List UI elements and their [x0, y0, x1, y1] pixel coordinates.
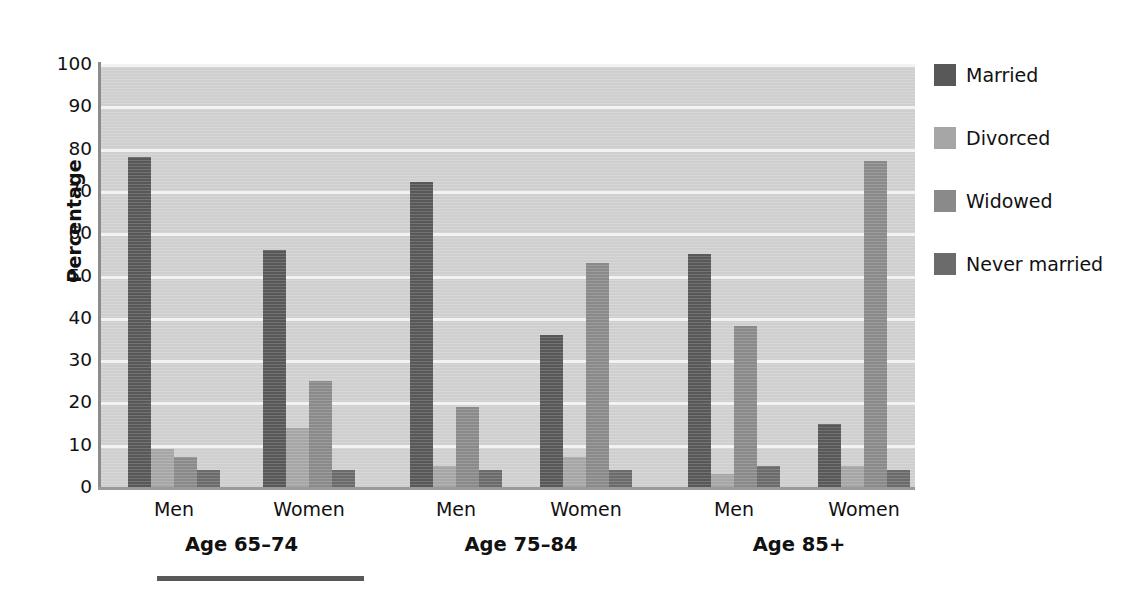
- x-tick-label-women: Women: [511, 498, 661, 520]
- y-tick-label: 40: [48, 309, 92, 328]
- bar: [563, 457, 586, 487]
- bar: [688, 254, 711, 487]
- y-tick-label: 30: [48, 351, 92, 370]
- bar: [734, 326, 757, 487]
- bar: [197, 470, 220, 487]
- legend-swatch-icon: [934, 127, 956, 149]
- gridline: [100, 191, 915, 194]
- age-group-label: Age 65–74: [127, 533, 357, 556]
- legend-swatch-icon: [934, 190, 956, 212]
- gridline: [100, 233, 915, 236]
- bar: [332, 470, 355, 487]
- y-tick-label: 50: [48, 266, 92, 285]
- bar: [410, 182, 433, 487]
- y-tick-label: 100: [48, 55, 92, 74]
- legend-label: Married: [966, 66, 1038, 85]
- legend-item[interactable]: Married: [934, 64, 1038, 86]
- y-tick-label: 20: [48, 393, 92, 412]
- x-axis-line: [98, 487, 915, 490]
- x-tick-label-men: Men: [659, 498, 809, 520]
- x-tick-label-women: Women: [234, 498, 384, 520]
- bar: [540, 335, 563, 487]
- bar: [711, 474, 734, 487]
- y-axis-tick-labels: 1009080706050403020100: [48, 64, 92, 487]
- bar: [174, 457, 197, 487]
- bar: [309, 381, 332, 487]
- legend-label: Divorced: [966, 129, 1050, 148]
- bar: [864, 161, 887, 487]
- gridline: [100, 276, 915, 279]
- legend-item[interactable]: Never married: [934, 253, 1103, 275]
- legend-label: Never married: [966, 255, 1103, 274]
- bar: [841, 466, 864, 487]
- bar: [887, 470, 910, 487]
- y-tick-label: 80: [48, 139, 92, 158]
- gridline: [100, 64, 915, 67]
- plot-area: [100, 64, 915, 487]
- bar: [456, 407, 479, 487]
- bar: [263, 250, 286, 487]
- y-tick-label: 90: [48, 97, 92, 116]
- bar: [757, 466, 780, 487]
- gridline: [100, 402, 915, 405]
- y-tick-label: 70: [48, 182, 92, 201]
- bar: [151, 449, 174, 487]
- bar: [818, 424, 841, 487]
- bar-chart-figure: Percentage 1009080706050403020100 MenWom…: [0, 0, 1124, 591]
- x-tick-label-men: Men: [99, 498, 249, 520]
- legend-label: Widowed: [966, 192, 1053, 211]
- legend-item[interactable]: Widowed: [934, 190, 1053, 212]
- age-group-label: Age 75–84: [406, 533, 636, 556]
- legend-swatch-icon: [934, 64, 956, 86]
- print-artifact-rule: [157, 576, 364, 581]
- gridline: [100, 360, 915, 363]
- legend-swatch-icon: [934, 253, 956, 275]
- y-tick-label: 0: [48, 478, 92, 497]
- x-tick-label-women: Women: [789, 498, 939, 520]
- bar: [433, 466, 456, 487]
- gridline: [100, 149, 915, 152]
- gridline: [100, 106, 915, 109]
- gridline: [100, 318, 915, 321]
- bar: [286, 428, 309, 487]
- bar: [609, 470, 632, 487]
- bar: [586, 263, 609, 487]
- y-tick-label: 60: [48, 224, 92, 243]
- y-axis-line: [98, 62, 101, 490]
- x-tick-label-men: Men: [381, 498, 531, 520]
- legend-item[interactable]: Divorced: [934, 127, 1050, 149]
- y-tick-label: 10: [48, 435, 92, 454]
- age-group-label: Age 85+: [684, 533, 914, 556]
- bar: [128, 157, 151, 487]
- bar: [479, 470, 502, 487]
- gridline: [100, 445, 915, 448]
